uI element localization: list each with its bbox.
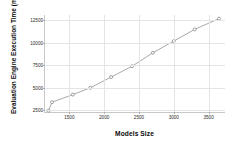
chart-container: Evaluation Engine Execution Time (ms) 25…: [0, 0, 234, 146]
y-tick-label: 2500: [33, 108, 43, 113]
y-tick-label: 7500: [33, 63, 43, 68]
data-point-marker: [151, 51, 154, 54]
y-tick-label: 10000: [30, 40, 43, 45]
x-gridline: [104, 15, 105, 112]
x-tick-mark: [174, 112, 175, 114]
y-gridline: [45, 88, 225, 89]
x-tick-label: 3000: [169, 115, 179, 120]
plot-area: 2500500075001000012500150020002500300035…: [44, 15, 225, 113]
x-gridline: [69, 15, 70, 112]
y-tick-mark: [43, 88, 45, 89]
x-tick-label: 3500: [203, 115, 213, 120]
data-point-marker: [110, 76, 113, 79]
x-axis-title: Models Size: [44, 130, 225, 137]
x-tick-mark: [139, 112, 140, 114]
y-tick-label: 5000: [33, 85, 43, 90]
y-gridline: [45, 110, 225, 111]
x-tick-label: 2000: [99, 115, 109, 120]
y-tick-mark: [43, 110, 45, 111]
x-tick-mark: [69, 112, 70, 114]
y-gridline: [45, 43, 225, 44]
line-series-svg: [45, 15, 226, 113]
data-point-marker: [50, 101, 53, 104]
y-gridline: [45, 65, 225, 66]
y-tick-mark: [43, 20, 45, 21]
x-gridline: [139, 15, 140, 112]
y-tick-mark: [43, 43, 45, 44]
data-point-marker: [193, 28, 196, 31]
y-tick-mark: [43, 65, 45, 66]
data-point-marker: [71, 93, 74, 96]
x-tick-label: 1500: [64, 115, 74, 120]
x-tick-mark: [104, 112, 105, 114]
x-tick-label: 2500: [134, 115, 144, 120]
x-gridline: [209, 15, 210, 112]
y-tick-label: 12500: [30, 18, 43, 23]
y-gridline: [45, 20, 225, 21]
x-gridline: [174, 15, 175, 112]
x-tick-mark: [209, 112, 210, 114]
y-axis-title: Evaluation Engine Execution Time (ms): [10, 0, 18, 114]
